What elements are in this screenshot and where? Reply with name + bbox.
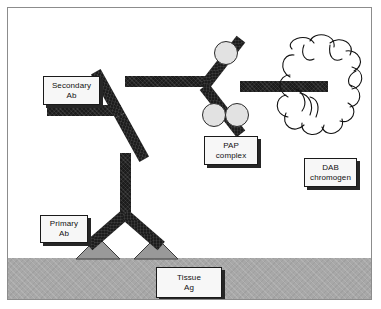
label-tissue-ag-line2: Ag bbox=[184, 283, 194, 293]
label-primary-ab: Primary Ab bbox=[40, 215, 88, 243]
label-tissue-ag-line1: Tissue bbox=[177, 273, 201, 283]
secondary-ab-bridge-bar bbox=[125, 76, 207, 87]
label-dab-chromogen-line1: DAB bbox=[322, 163, 339, 173]
label-pap-complex: PAP complex bbox=[204, 136, 258, 165]
peroxidase-circle-top bbox=[214, 41, 238, 65]
diagram-frame: Secondary Ab Primary Ab PAP complex DAB … bbox=[7, 7, 372, 300]
label-primary-ab-line2: Ab bbox=[59, 229, 69, 239]
label-dab-chromogen: DAB chromogen bbox=[304, 158, 357, 187]
label-pap-complex-line1: PAP bbox=[223, 141, 239, 151]
dab-chromogen-cloud-icon bbox=[270, 29, 372, 147]
peroxidase-circle-lower-left bbox=[202, 103, 226, 127]
label-primary-ab-line1: Primary bbox=[50, 219, 78, 229]
peroxidase-circle-lower-right bbox=[225, 103, 249, 127]
label-secondary-ab: Secondary Ab bbox=[43, 76, 100, 105]
label-pap-complex-line2: complex bbox=[216, 151, 247, 161]
label-dab-chromogen-line2: chromogen bbox=[310, 173, 351, 183]
label-secondary-ab-line1: Secondary bbox=[52, 81, 91, 91]
label-tissue-ag: Tissue Ag bbox=[156, 267, 222, 298]
pap-method-diagram: Secondary Ab Primary Ab PAP complex DAB … bbox=[0, 0, 381, 309]
label-secondary-ab-line2: Ab bbox=[67, 91, 77, 101]
